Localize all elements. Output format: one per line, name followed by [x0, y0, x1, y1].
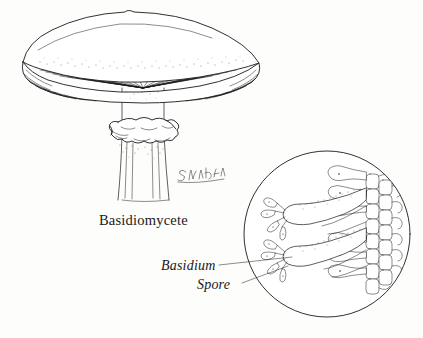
- stipe: [118, 88, 169, 202]
- label-basidium: Basidium: [161, 258, 216, 274]
- cap-top: [23, 11, 259, 83]
- hymenium-inset: [244, 151, 410, 317]
- basidiomycete-figure: Basidiomycete Basidium Spore: [0, 0, 423, 338]
- artist-signature: [178, 168, 225, 183]
- annulus-stipple: [120, 145, 164, 159]
- page-title: Basidiomycete: [99, 212, 188, 229]
- label-spore: Spore: [197, 277, 230, 293]
